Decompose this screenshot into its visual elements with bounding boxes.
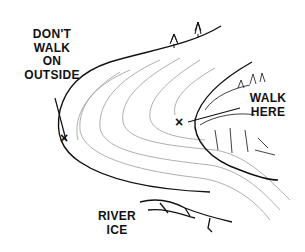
tree-icon — [170, 22, 201, 48]
marker-x-inside: × — [175, 116, 183, 130]
tree-icon — [238, 73, 265, 88]
dont-walk-label: DON'T WALK ON OUTSIDE — [16, 28, 88, 82]
walk-here-label: WALK HERE — [244, 92, 292, 119]
marker-x-outside: × — [60, 132, 68, 146]
ice-crack — [140, 200, 232, 232]
ice-flow-lines — [77, 58, 290, 220]
river-ice-label: RIVER ICE — [94, 210, 140, 237]
